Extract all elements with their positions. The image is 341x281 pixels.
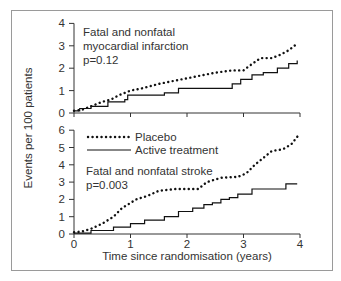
mi-title-line2: myocardial infarction (83, 39, 188, 53)
y-tick-label: 3 (59, 176, 65, 188)
x-tick-label: 3 (240, 238, 246, 250)
y-tick-label: 0 (59, 107, 65, 119)
y-axis-label: Events per 100 patients (22, 68, 34, 189)
y-tick-label: 5 (59, 142, 65, 154)
y-tick-label: 0 (59, 228, 65, 240)
active-treatment-line (74, 60, 297, 110)
y-tick-label: 4 (59, 159, 66, 171)
legend-placebo-label: Placebo (135, 130, 177, 144)
y-tick-label: 2 (59, 193, 65, 205)
y-tick-label: 1 (59, 211, 65, 223)
y-tick-label: 3 (59, 40, 65, 52)
mi-title-line1: Fatal and nonfatal (83, 25, 175, 39)
x-tick-label: 0 (71, 238, 77, 250)
x-tick-label: 2 (184, 238, 190, 250)
mi-p-value: p=0.12 (83, 53, 119, 67)
y-tick-label: 2 (59, 62, 65, 74)
x-tick-label: 1 (127, 238, 133, 250)
stroke-p-value: p=0.003 (86, 178, 128, 192)
stroke-title: Fatal and nonfatal stroke (86, 164, 213, 178)
x-axis-label: Time since randomisation (years) (102, 250, 272, 262)
y-tick-label: 4 (59, 17, 66, 29)
legend-active-label: Active treatment (135, 143, 218, 157)
x-tick-label: 4 (297, 238, 304, 250)
y-tick-label: 6 (59, 124, 65, 136)
y-tick-label: 1 (59, 85, 65, 97)
